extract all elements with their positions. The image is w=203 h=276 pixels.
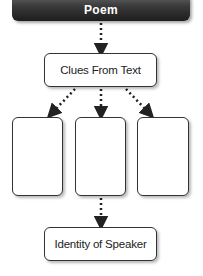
clues-from-text-node: Clues From Text <box>44 53 157 87</box>
identity-of-speaker-label: Identity of Speaker <box>54 238 146 250</box>
identity-of-speaker-node: Identity of Speaker <box>44 227 157 261</box>
clues-from-text-label: Clues From Text <box>60 64 141 76</box>
arrow-clues-to-box-1 <box>52 89 75 113</box>
arrow-clues-to-box-3 <box>126 89 149 113</box>
clue-box-1 <box>12 117 63 196</box>
clue-box-3 <box>137 117 189 196</box>
poem-label: Poem <box>84 3 118 17</box>
clue-box-2 <box>75 117 126 196</box>
poem-node: Poem <box>12 0 190 21</box>
